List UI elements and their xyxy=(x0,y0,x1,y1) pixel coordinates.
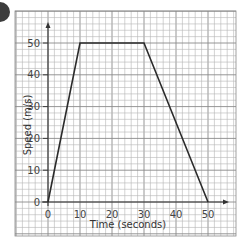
x-tick-label: 50 xyxy=(202,209,215,220)
y-axis-label: Speed (m/s) xyxy=(22,95,33,156)
x-tick-label: 40 xyxy=(170,209,183,220)
speed-time-line xyxy=(48,43,208,202)
question-badge xyxy=(0,2,10,22)
y-tick-label: 50 xyxy=(27,38,40,49)
speed-time-graph: 01020304050 01020304050 Speed (m/s) Time… xyxy=(0,0,246,247)
x-tick-label: 10 xyxy=(74,209,87,220)
x-axis-label: Time (seconds) xyxy=(89,219,166,230)
y-tick-label: 10 xyxy=(27,165,40,176)
y-tick-label: 40 xyxy=(27,69,40,80)
x-tick-label: 0 xyxy=(45,209,51,220)
y-tick-label: 0 xyxy=(34,197,40,208)
